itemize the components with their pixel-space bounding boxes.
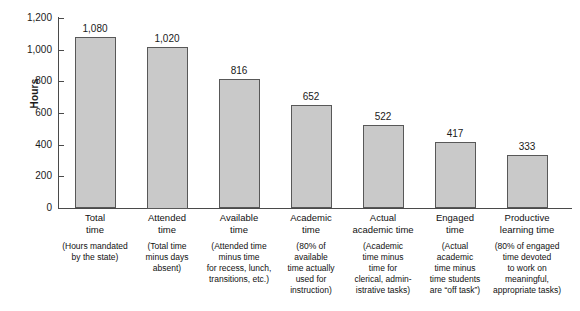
bar-value-label: 417	[419, 128, 491, 139]
bar-chart: Hours 02004006008001,0001,200 1,0801,020…	[0, 0, 580, 311]
bar-value-label: 652	[275, 91, 347, 102]
y-axis-tick	[59, 145, 64, 146]
y-axis-tick-label: 200	[6, 171, 52, 181]
category-title: Total time	[58, 212, 132, 236]
y-axis-tick-label-wrap: 600	[0, 108, 52, 118]
bar	[507, 155, 548, 208]
bar	[147, 47, 188, 209]
x-axis-category-label: Productive learning time(80% of engaged …	[489, 212, 565, 296]
category-title: Available time	[202, 212, 276, 236]
x-axis-category-label: Engaged time(Actual academic time minus …	[417, 212, 493, 296]
y-axis-tick-label: 1,200	[6, 13, 52, 23]
category-title: Engaged time	[418, 212, 492, 236]
category-description: (Academic time minus time for clerical, …	[346, 241, 420, 296]
bar-value-label: 522	[347, 111, 419, 122]
bar	[363, 125, 404, 208]
y-axis-tick-label: 0	[6, 203, 52, 213]
bar	[291, 105, 332, 208]
x-axis-category-label: Attended time(Total time minus days abse…	[129, 212, 205, 274]
y-axis-tick	[59, 18, 64, 19]
y-axis-tick-label-wrap: 400	[0, 140, 52, 150]
category-description: (80% of engaged time devoted to work on …	[490, 241, 564, 296]
y-axis-tick	[59, 113, 64, 114]
y-axis-tick-label: 1,000	[6, 45, 52, 55]
y-axis-tick-label-wrap: 800	[0, 76, 52, 86]
x-axis-category-label: Total time(Hours mandated by the state)	[57, 212, 133, 263]
y-axis-tick-label-wrap: 0	[0, 203, 52, 213]
x-axis-line	[58, 208, 572, 209]
bar	[435, 142, 476, 208]
bar-value-label: 816	[203, 65, 275, 76]
y-axis-tick-label: 800	[6, 76, 52, 86]
y-axis-tick-label: 400	[6, 140, 52, 150]
y-axis-tick	[59, 176, 64, 177]
bar-value-label: 333	[491, 141, 563, 152]
category-description: (Hours mandated by the state)	[58, 241, 132, 263]
y-axis-tick	[59, 208, 64, 209]
x-axis-category-label: Actual academic time(Academic time minus…	[345, 212, 421, 296]
category-description: (80% of available time actually used for…	[274, 241, 348, 296]
category-title: Attended time	[130, 212, 204, 236]
bar-value-label: 1,080	[59, 23, 131, 34]
category-description: (Total time minus days absent)	[130, 241, 204, 274]
y-axis-tick-label-wrap: 200	[0, 171, 52, 181]
category-description: (Actual academic time minus time student…	[418, 241, 492, 296]
y-axis-tick	[59, 81, 64, 82]
y-axis-tick	[59, 50, 64, 51]
category-title: Actual academic time	[346, 212, 420, 236]
bar	[219, 79, 260, 208]
category-title: Academic time	[274, 212, 348, 236]
category-description: (Attended time minus time for recess, lu…	[202, 241, 276, 285]
x-axis-category-label: Available time(Attended time minus time …	[201, 212, 277, 285]
y-axis-tick-label: 600	[6, 108, 52, 118]
bar-value-label: 1,020	[131, 33, 203, 44]
x-axis-category-label: Academic time(80% of available time actu…	[273, 212, 349, 296]
y-axis-tick-label-wrap: 1,200	[0, 13, 52, 23]
category-title: Productive learning time	[490, 212, 564, 236]
bar	[75, 37, 116, 208]
y-axis-tick-label-wrap: 1,000	[0, 45, 52, 55]
